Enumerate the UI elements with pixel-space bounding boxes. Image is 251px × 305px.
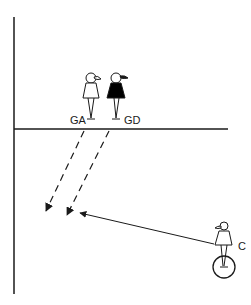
player-gd-label: GD: [124, 114, 141, 126]
player-ga-icon: [83, 73, 101, 119]
diagram-canvas: GA GD C: [0, 0, 251, 305]
ga-run-arrow: [46, 131, 84, 211]
gd-run-arrow: [67, 131, 109, 215]
player-c-icon: [213, 222, 235, 278]
player-gd-icon: [107, 73, 128, 119]
c-pass-arrow: [80, 213, 214, 244]
player-c-label: C: [238, 240, 246, 252]
player-ga-label: GA: [70, 114, 87, 126]
